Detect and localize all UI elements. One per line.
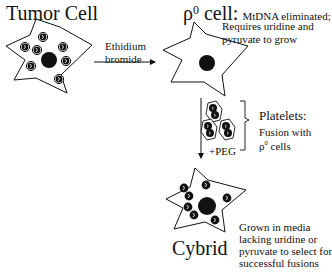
- platelets-desc-tail: cells: [268, 140, 291, 152]
- tumor-cell-title: Tumor Cell: [6, 3, 98, 23]
- nucleus-icon: [199, 55, 215, 71]
- mitochondrion-icon: [58, 42, 67, 51]
- mitochondrion-icon: [211, 216, 220, 225]
- mitochondrion-icon: [32, 45, 41, 54]
- platelet-icon: [201, 119, 217, 140]
- tumor-cell-shape: [6, 19, 92, 93]
- mitochondrion-icon: [184, 203, 193, 212]
- platelets-title: Platelets:: [259, 109, 307, 123]
- rho0-desc-line3: pyruvate to grow: [222, 33, 297, 46]
- nucleus-icon: [41, 52, 57, 68]
- cybrid-desc-line4: successful fusions: [239, 257, 319, 270]
- mitochondrion-icon: [190, 211, 199, 220]
- mitochondrion-icon: [185, 192, 194, 201]
- platelets-desc-line2: ρ0 cells: [259, 140, 291, 153]
- peg-label: +PEG: [209, 145, 236, 158]
- nucleus-icon: [198, 197, 216, 215]
- mitochondrion-icon: [20, 42, 29, 51]
- platelets-bracket: [240, 101, 249, 150]
- cybrid-title: Cybrid: [172, 238, 228, 258]
- mitochondrion-icon: [202, 181, 211, 190]
- rho-symbol: ρ: [183, 2, 193, 24]
- ethidium-label-line2: bromide: [105, 53, 142, 66]
- ethidium-label-line1: Ethidium: [105, 40, 146, 53]
- mitochondrion-icon: [54, 74, 63, 83]
- platelet-icon: [219, 119, 235, 140]
- cybrid-cell-shape: [166, 168, 246, 232]
- platelet-icon: [206, 101, 222, 122]
- mitochondrion-icon: [38, 32, 47, 41]
- mitochondrion-icon: [26, 61, 35, 70]
- mitochondrion-icon: [61, 56, 70, 65]
- rho0-desc-line2: Requires uridine and: [222, 20, 314, 33]
- platelets-desc-line1: Fusion with: [259, 126, 311, 139]
- mitochondrion-icon: [223, 194, 232, 203]
- platelets-group: [201, 101, 235, 140]
- mitochondrion-icon: [180, 184, 189, 193]
